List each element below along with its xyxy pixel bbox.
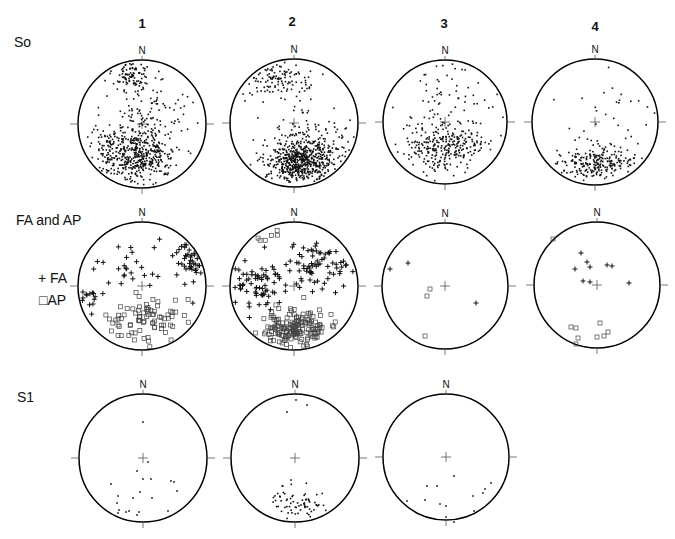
data-point bbox=[473, 153, 475, 155]
fa-marker bbox=[288, 259, 293, 264]
data-point bbox=[141, 176, 143, 178]
data-point bbox=[599, 158, 601, 160]
data-point bbox=[167, 156, 169, 158]
ap-marker bbox=[333, 320, 337, 324]
data-point bbox=[134, 152, 136, 154]
data-point bbox=[257, 91, 259, 93]
data-point bbox=[415, 128, 417, 130]
data-point bbox=[458, 138, 460, 140]
data-point bbox=[136, 514, 138, 516]
data-point bbox=[597, 167, 599, 169]
data-point bbox=[298, 146, 300, 148]
data-point bbox=[341, 135, 343, 137]
data-point bbox=[170, 131, 172, 133]
data-point bbox=[136, 470, 138, 472]
ap-marker bbox=[318, 313, 322, 317]
data-point bbox=[98, 148, 100, 150]
data-point bbox=[144, 165, 146, 167]
data-point bbox=[153, 145, 155, 147]
data-point bbox=[101, 147, 103, 149]
data-point bbox=[601, 172, 603, 174]
data-point bbox=[456, 136, 458, 138]
data-point bbox=[450, 153, 452, 155]
data-point bbox=[306, 404, 308, 406]
data-point bbox=[106, 95, 108, 97]
data-point bbox=[580, 160, 582, 162]
data-point bbox=[139, 72, 141, 74]
data-point bbox=[467, 120, 469, 122]
data-point bbox=[293, 110, 295, 112]
data-point bbox=[98, 137, 100, 139]
data-point bbox=[129, 110, 131, 112]
fa-marker bbox=[313, 244, 318, 249]
data-point bbox=[187, 96, 189, 98]
data-point bbox=[318, 138, 320, 140]
data-point bbox=[296, 73, 298, 75]
data-point bbox=[449, 124, 451, 126]
data-point bbox=[170, 480, 172, 482]
data-point bbox=[606, 166, 608, 168]
data-point bbox=[307, 150, 309, 152]
data-point bbox=[297, 513, 299, 515]
data-point bbox=[411, 117, 413, 119]
ap-marker bbox=[117, 324, 121, 328]
data-point bbox=[164, 126, 166, 128]
data-point bbox=[130, 181, 132, 183]
data-point bbox=[320, 165, 322, 167]
data-point bbox=[166, 164, 168, 166]
data-point bbox=[292, 175, 294, 177]
data-point bbox=[299, 168, 301, 170]
data-point bbox=[137, 183, 139, 185]
data-point bbox=[142, 124, 144, 126]
data-point bbox=[129, 80, 131, 82]
data-point bbox=[638, 100, 640, 102]
data-point bbox=[298, 126, 300, 128]
data-point bbox=[292, 168, 294, 170]
data-point bbox=[124, 164, 126, 166]
fa-marker bbox=[254, 285, 259, 290]
data-point bbox=[411, 156, 413, 158]
data-point bbox=[627, 129, 629, 131]
data-point bbox=[428, 101, 430, 103]
data-point bbox=[279, 139, 281, 141]
data-point bbox=[593, 164, 595, 166]
data-point bbox=[145, 149, 147, 151]
data-point bbox=[118, 138, 120, 140]
data-point bbox=[279, 156, 281, 158]
data-point bbox=[328, 163, 330, 165]
data-point bbox=[122, 116, 124, 118]
data-point bbox=[452, 141, 454, 143]
data-point bbox=[454, 152, 456, 154]
data-point bbox=[315, 129, 317, 131]
data-point bbox=[454, 136, 456, 138]
ap-marker bbox=[277, 340, 281, 344]
data-point bbox=[480, 147, 482, 149]
data-point bbox=[128, 173, 130, 175]
data-point bbox=[127, 145, 129, 147]
data-point bbox=[576, 148, 578, 150]
data-point bbox=[144, 70, 146, 72]
data-point bbox=[152, 159, 154, 161]
data-point bbox=[136, 171, 138, 173]
data-point bbox=[141, 153, 143, 155]
data-point bbox=[152, 183, 154, 185]
fa-marker bbox=[139, 265, 144, 270]
data-point bbox=[455, 147, 457, 149]
data-point bbox=[301, 109, 303, 111]
data-point bbox=[469, 137, 471, 139]
data-point bbox=[270, 78, 272, 80]
data-point bbox=[603, 149, 605, 151]
data-point bbox=[581, 163, 583, 165]
data-point bbox=[312, 143, 314, 145]
stereonet-s1-2: N bbox=[223, 379, 367, 528]
data-point bbox=[264, 139, 266, 141]
data-point bbox=[484, 99, 486, 101]
data-point bbox=[303, 169, 305, 171]
data-point bbox=[101, 170, 103, 172]
data-point bbox=[126, 98, 128, 100]
data-point bbox=[147, 150, 149, 152]
data-point bbox=[164, 166, 166, 168]
center-cross-icon bbox=[590, 117, 600, 127]
data-point bbox=[310, 150, 312, 152]
data-point bbox=[304, 77, 306, 79]
